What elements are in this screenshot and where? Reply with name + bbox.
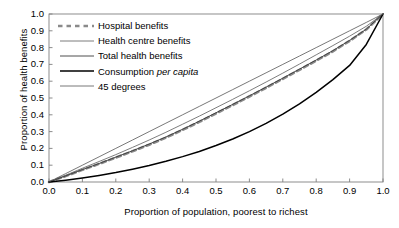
legend-line-swatch [57, 20, 95, 32]
legend-label: Total health benefits [95, 50, 183, 61]
legend-label: Consumption per capita [95, 66, 198, 77]
legend-label: Hospital benefits [95, 20, 168, 31]
legend-label: 45 degrees [95, 81, 146, 92]
legend-line-swatch [57, 35, 95, 47]
chart-legend: Hospital benefitsHealth centre benefitsT… [57, 18, 227, 94]
legend-item: Hospital benefits [57, 18, 227, 33]
legend-line-swatch [57, 50, 95, 62]
legend-label: Health centre benefits [95, 35, 190, 46]
legend-item: Health centre benefits [57, 33, 227, 48]
legend-item: 45 degrees [57, 79, 227, 94]
legend-line-swatch [57, 80, 95, 92]
legend-line-swatch [57, 65, 95, 77]
legend-item: Total health benefits [57, 48, 227, 63]
legend-item: Consumption per capita [57, 64, 227, 79]
lorenz-curve-chart: Proportion of health benefits 0.00.10.20… [0, 0, 399, 228]
